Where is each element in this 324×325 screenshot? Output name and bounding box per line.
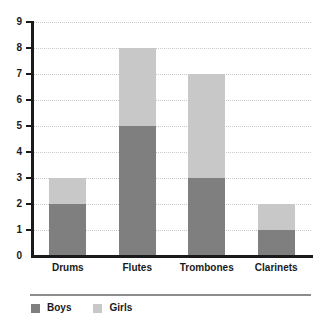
y-tick-label: 5 [0, 121, 22, 131]
x-tick-label-clarinets: Clarinets [242, 262, 312, 274]
bar-chart-figure: 0123456789 DrumsFlutesTrombonesClarinets… [0, 0, 324, 325]
plot-area [33, 22, 311, 256]
y-tick-mark [26, 229, 32, 231]
y-tick-label: 2 [0, 199, 22, 209]
bar-segment-boys[interactable] [258, 230, 295, 256]
y-tick-mark [26, 125, 32, 127]
bar-stack[interactable] [49, 22, 86, 256]
legend-separator [30, 294, 311, 296]
bar-stack[interactable] [188, 22, 225, 256]
bar-segment-girls[interactable] [119, 48, 156, 126]
bar-stack[interactable] [119, 22, 156, 256]
y-tick-mark [26, 151, 32, 153]
legend-item-boys: Boys [31, 303, 71, 313]
y-tick-mark [26, 47, 32, 49]
x-tick-label-flutes: Flutes [103, 262, 173, 274]
y-tick-mark [26, 203, 32, 205]
bar-segment-boys[interactable] [119, 126, 156, 256]
legend-label-boys: Boys [47, 303, 71, 313]
y-tick-label: 3 [0, 173, 22, 183]
chart-legend: Boys Girls [31, 303, 132, 313]
y-tick-label: 9 [0, 17, 22, 27]
bar-segment-girls[interactable] [49, 178, 86, 204]
legend-swatch-boys [31, 304, 40, 313]
y-axis-line [31, 21, 34, 258]
legend-swatch-girls [93, 304, 102, 313]
x-axis-line [31, 255, 313, 258]
x-tick-label-trombones: Trombones [172, 262, 242, 274]
y-tick-mark [26, 177, 32, 179]
y-tick-label: 4 [0, 147, 22, 157]
bar-segment-girls[interactable] [188, 74, 225, 178]
y-tick-label: 6 [0, 95, 22, 105]
bar-segment-boys[interactable] [49, 204, 86, 256]
x-tick-label-drums: Drums [33, 262, 103, 274]
y-tick-label: 1 [0, 225, 22, 235]
y-tick-label: 0 [0, 251, 22, 261]
y-tick-label: 7 [0, 69, 22, 79]
legend-label-girls: Girls [109, 303, 132, 313]
bar-stack[interactable] [258, 22, 295, 256]
y-tick-mark [26, 99, 32, 101]
bar-segment-boys[interactable] [188, 178, 225, 256]
y-tick-mark [26, 73, 32, 75]
legend-item-girls: Girls [93, 303, 132, 313]
y-tick-mark [26, 21, 32, 23]
y-tick-label: 8 [0, 43, 22, 53]
bar-segment-girls[interactable] [258, 204, 295, 230]
